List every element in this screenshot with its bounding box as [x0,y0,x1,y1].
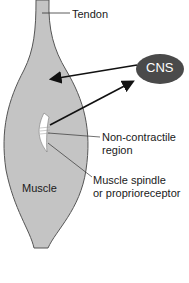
muscle-label: Muscle [22,182,57,194]
spindle-label-1: Muscle spindle [93,174,166,186]
cns-label: CNS [146,62,173,74]
non-contractile-label-1: Non-contractile [102,131,176,143]
spindle-label-2: or proprioreceptor [93,187,180,199]
tendon-label: Tendon [72,8,108,20]
non-contractile-label-2: region [102,144,133,156]
